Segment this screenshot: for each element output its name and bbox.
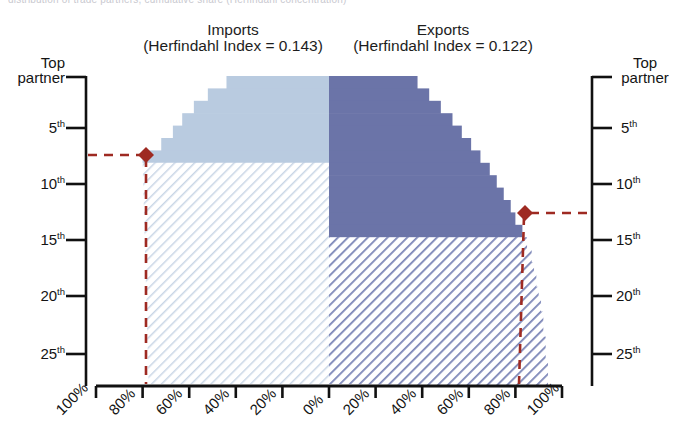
exports-bar-rank-4 <box>329 113 452 126</box>
exports-bar-rank-3 <box>329 101 441 114</box>
exports-bar-rank-9 <box>329 175 497 188</box>
exports-bars-group <box>329 76 522 238</box>
imports-bar-rank-4 <box>182 113 329 126</box>
imports-bar-rank-1 <box>226 76 329 89</box>
imports-bar-rank-5 <box>173 126 329 139</box>
exports-hatched-region <box>329 237 548 386</box>
exports-bar-rank-13 <box>329 225 522 238</box>
exports-bar-rank-12 <box>329 212 515 225</box>
x-axis-ticks <box>96 386 562 398</box>
imports-hatched-region <box>143 163 329 384</box>
imports-bar-rank-3 <box>194 101 329 114</box>
imports-bar-rank-6 <box>161 138 329 151</box>
exports-bar-rank-6 <box>329 138 471 151</box>
exports-bar-rank-8 <box>329 163 490 176</box>
exports-bar-rank-7 <box>329 150 480 163</box>
exports-bar-rank-1 <box>329 76 418 89</box>
exports-bar-rank-2 <box>329 88 429 101</box>
chart-figure: distribution of trade partners, cumulati… <box>0 0 676 443</box>
imports-hatch-shape <box>143 163 329 384</box>
imports-bar-rank-7 <box>143 150 329 163</box>
exports-bar-rank-5 <box>329 126 462 139</box>
plot-canvas <box>0 0 676 443</box>
exports-hatch-shape <box>329 237 548 386</box>
exports-bar-rank-11 <box>329 200 511 213</box>
imports-bar-rank-2 <box>208 88 329 101</box>
exports-bar-rank-10 <box>329 188 504 201</box>
exports-marker-diamond <box>517 205 533 221</box>
imports-bars-group <box>143 76 329 163</box>
